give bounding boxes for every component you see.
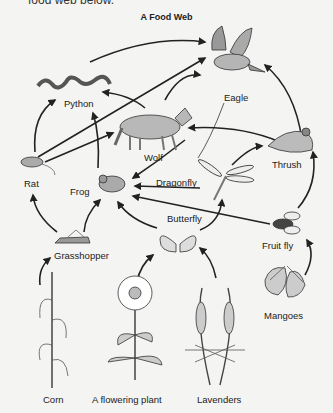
lavenders-icon — [185, 288, 245, 385]
python-icon — [38, 77, 110, 88]
label-fruit-fly: Fruit fly — [262, 240, 293, 251]
label-frog: Frog — [70, 186, 90, 197]
fruitfly-icon — [273, 212, 300, 234]
flowering-plant-icon — [108, 276, 162, 380]
corn-icon — [39, 272, 68, 388]
label-rat: Rat — [24, 178, 39, 189]
eagle-icon — [212, 26, 265, 72]
label-grasshopper: Grasshopper — [54, 250, 109, 261]
label-lavenders: Lavenders — [197, 394, 241, 405]
label-flowering-plant: A flowering plant — [92, 394, 162, 405]
arrow-python-eagle — [90, 41, 205, 62]
label-dragonfly: Dragonfly — [156, 177, 197, 188]
label-thrush: Thrush — [272, 159, 302, 170]
arrow-grasshopper-rat — [33, 195, 57, 232]
arrow-butterfly-frog — [118, 202, 157, 228]
dragonfly-icon — [197, 158, 254, 200]
food-web-diagram — [0, 0, 333, 413]
mangoes-icon — [265, 266, 305, 297]
arrow-dragonfly-thrush — [232, 146, 262, 165]
arrow-corn-grasshopper — [40, 258, 50, 285]
arrow-mangoes-fruitfly — [305, 240, 311, 275]
arrow-lavenders-butterfly — [200, 248, 216, 278]
arrow-thrush-wolf — [189, 128, 280, 142]
label-eagle: Eagle — [224, 92, 248, 103]
butterfly-icon — [160, 236, 196, 252]
label-wolf: Wolf — [144, 152, 163, 163]
label-corn: Corn — [43, 394, 64, 405]
arrow-thrush-eagle — [265, 65, 302, 140]
label-mangoes: Mangoes — [264, 310, 303, 321]
label-butterfly: Butterfly — [167, 213, 202, 224]
arrow-rat-python — [35, 100, 55, 152]
arrow-butterfly-dragonfly — [200, 200, 222, 230]
frog-icon — [99, 175, 125, 192]
label-python: Python — [64, 98, 94, 109]
arrow-grasshopper-frog — [84, 200, 100, 232]
thrush-icon — [268, 128, 313, 152]
